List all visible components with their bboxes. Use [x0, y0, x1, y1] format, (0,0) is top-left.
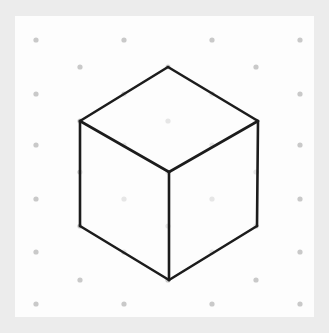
- grid-dot: [121, 301, 126, 306]
- isometric-figure: [0, 0, 329, 333]
- edge-upper-right-to-lower-right: [257, 121, 258, 226]
- grid-dot: [77, 64, 82, 69]
- grid-dot: [209, 301, 214, 306]
- grid-dot: [33, 142, 38, 147]
- drawing-canvas: [0, 0, 329, 333]
- grid-dot: [33, 91, 38, 96]
- grid-dot: [33, 196, 38, 201]
- grid-dot: [33, 301, 38, 306]
- grid-dot: [253, 64, 258, 69]
- grid-dot: [33, 37, 38, 42]
- grid-dot: [297, 142, 302, 147]
- grid-dot: [297, 37, 302, 42]
- grid-dot: [253, 277, 258, 282]
- grid-dot: [121, 37, 126, 42]
- grid-dot: [209, 37, 214, 42]
- grid-dot: [297, 196, 302, 201]
- grid-dot: [297, 301, 302, 306]
- grid-dot: [297, 91, 302, 96]
- grid-dot: [297, 249, 302, 254]
- grid-dot: [33, 249, 38, 254]
- grid-dot: [77, 277, 82, 282]
